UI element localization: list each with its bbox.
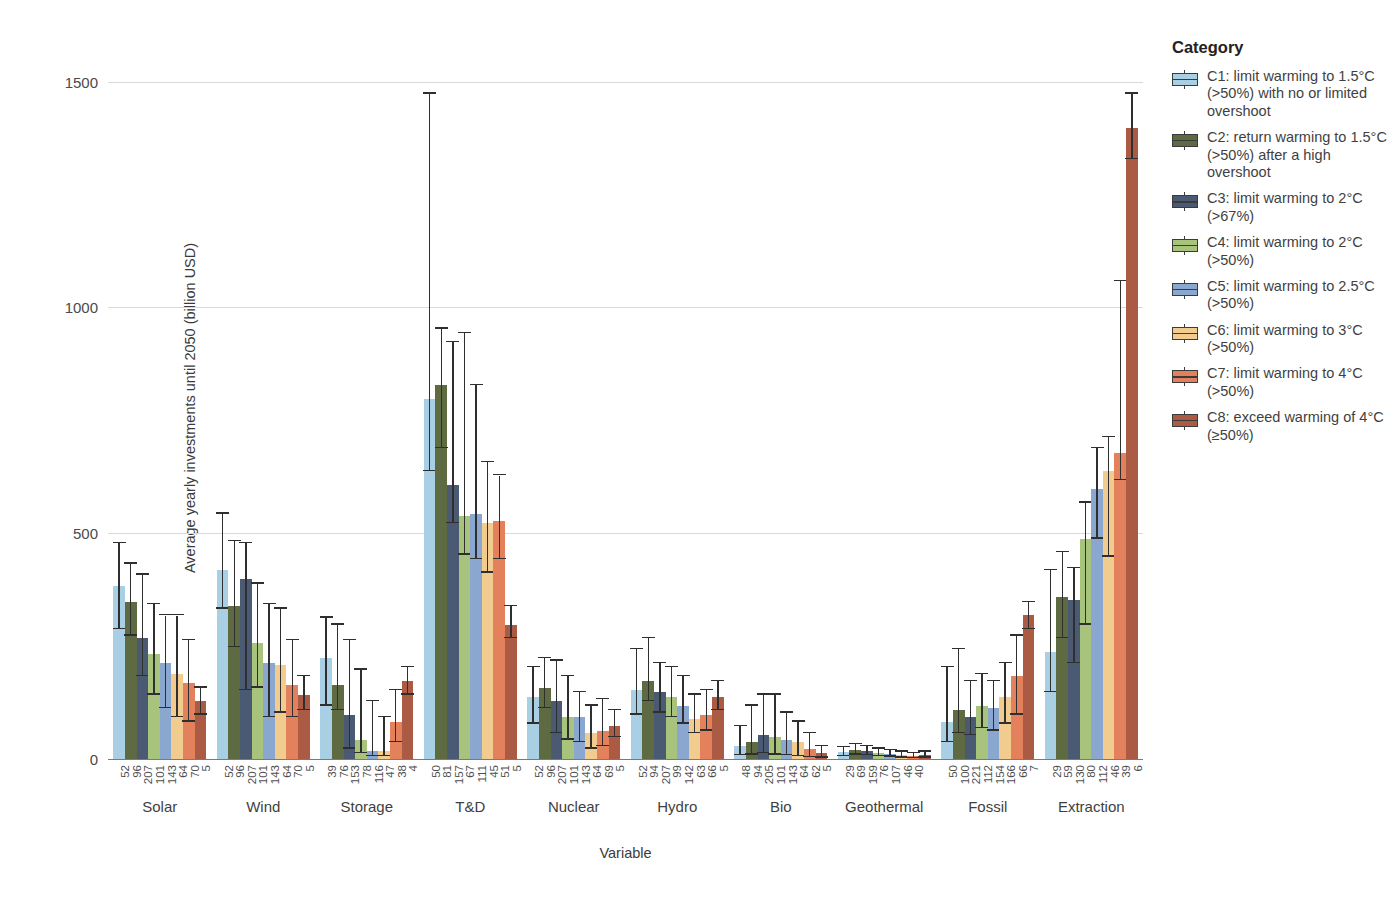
error-cap-lower xyxy=(987,729,1000,730)
bar-slot: 69 xyxy=(597,60,609,760)
bar-count-label: 5 xyxy=(821,765,833,771)
bar-slot: 47 xyxy=(378,60,390,760)
bar-count-label: 4 xyxy=(407,765,419,771)
error-cap-lower xyxy=(608,736,621,737)
error-bar xyxy=(774,695,775,755)
bar-count-label: 143 xyxy=(166,765,178,784)
bar-group-geothermal: 2969159761074640 xyxy=(833,60,937,760)
error-bar xyxy=(614,710,615,737)
error-cap-upper xyxy=(1067,567,1080,568)
bar-group-fossil: 50100221112154166667 xyxy=(936,60,1040,760)
bar-count-label: 5 xyxy=(511,765,523,771)
legend-item-c2[interactable]: C2: return warming to 1.5°C (>50%) after… xyxy=(1172,129,1387,181)
legend-item-label: C1: limit warming to 1.5°C (>50%) with n… xyxy=(1207,68,1387,120)
bar-count-label: 46 xyxy=(902,765,914,778)
y-tick-label: 1000 xyxy=(65,299,98,316)
error-cap-upper xyxy=(964,680,977,681)
error-bar xyxy=(292,640,293,717)
legend-item-c3[interactable]: C3: limit warming to 2°C (>67%) xyxy=(1172,190,1387,225)
error-cap-lower xyxy=(354,752,367,753)
error-cap-upper xyxy=(274,607,287,608)
legend-item-c5[interactable]: C5: limit warming to 2.5°C (>50%) xyxy=(1172,278,1387,313)
bar-slot: 159 xyxy=(861,60,873,760)
bar-count-label: 96 xyxy=(234,765,246,778)
bar-slot: 5 xyxy=(609,60,621,760)
bar-count-label: 101 xyxy=(257,765,269,784)
bar-C8-extraction[interactable] xyxy=(1126,128,1138,760)
error-cap-lower xyxy=(251,686,264,687)
error-bar xyxy=(970,681,971,735)
bar-slot: 64 xyxy=(275,60,287,760)
bar-count-label: 69 xyxy=(603,765,615,778)
bar-slot: 111 xyxy=(470,60,482,760)
error-cap-upper xyxy=(1044,569,1057,570)
error-cap-upper xyxy=(1022,601,1035,602)
error-cap-upper xyxy=(527,666,540,667)
legend-item-label: C8: exceed warming of 4°C (≥50%) xyxy=(1207,409,1387,444)
bar-C8-t-d[interactable] xyxy=(505,625,517,760)
error-bar xyxy=(407,667,408,694)
error-cap-upper xyxy=(263,603,276,604)
error-cap-lower xyxy=(239,689,252,690)
error-cap-upper xyxy=(423,92,436,93)
error-cap-upper xyxy=(470,384,483,385)
bar-count-label: 64 xyxy=(798,765,810,778)
legend-item-c7[interactable]: C7: limit warming to 4°C (>50%) xyxy=(1172,365,1387,400)
legend-item-c1[interactable]: C1: limit warming to 1.5°C (>50%) with n… xyxy=(1172,68,1387,120)
error-bar xyxy=(188,640,189,721)
chart-page: Average yearly investments until 2050 (b… xyxy=(0,0,1397,918)
bar-slot: 101 xyxy=(148,60,160,760)
x-group-label-geothermal: Geothermal xyxy=(833,798,937,815)
bar-slot: 63 xyxy=(689,60,701,760)
error-bar xyxy=(1085,503,1086,625)
error-cap-upper xyxy=(952,648,965,649)
bar-C3-t-d[interactable] xyxy=(447,485,459,760)
median-mark xyxy=(1172,376,1198,377)
error-cap-upper xyxy=(837,746,850,747)
error-bar xyxy=(395,690,396,742)
bar-slot: 48 xyxy=(734,60,746,760)
error-bar xyxy=(763,695,764,754)
error-cap-lower xyxy=(1022,628,1035,629)
x-group-label-wind: Wind xyxy=(212,798,316,815)
error-bar xyxy=(717,681,718,710)
bar-slot: 130 xyxy=(1068,60,1080,760)
bar-C7-extraction[interactable] xyxy=(1114,453,1126,760)
legend-item-c4[interactable]: C4: limit warming to 2°C (>50%) xyxy=(1172,234,1387,269)
bar-count-label: 111 xyxy=(476,765,488,782)
error-bar xyxy=(797,722,798,757)
x-group-label-t-d: T&D xyxy=(419,798,523,815)
error-cap-lower xyxy=(481,571,494,572)
legend-item-c6[interactable]: C6: limit warming to 3°C (>50%) xyxy=(1172,322,1387,357)
legend-item-label: C4: limit warming to 2°C (>50%) xyxy=(1207,234,1387,269)
error-cap-lower xyxy=(1056,637,1069,638)
error-bar xyxy=(1108,437,1109,557)
error-cap-upper xyxy=(228,540,241,541)
x-group-label-nuclear: Nuclear xyxy=(522,798,626,815)
bar-count-label: 107 xyxy=(890,765,902,784)
error-cap-upper xyxy=(239,542,252,543)
error-cap-lower xyxy=(596,745,609,746)
error-bar xyxy=(532,667,533,723)
error-cap-lower xyxy=(136,675,149,676)
bar-slot: 52 xyxy=(113,60,125,760)
error-cap-upper xyxy=(136,573,149,574)
bar-count-label: 70 xyxy=(292,765,304,778)
bar-slot: 112 xyxy=(1091,60,1103,760)
error-bar xyxy=(499,476,500,560)
error-cap-lower xyxy=(1091,537,1104,538)
error-bar xyxy=(349,640,350,748)
x-axis-label: Variable xyxy=(108,845,1143,861)
bar-count-label: 6 xyxy=(1132,765,1144,771)
error-cap-lower xyxy=(952,732,965,733)
legend-item-c8[interactable]: C8: exceed warming of 4°C (≥50%) xyxy=(1172,409,1387,444)
bar-slot: 107 xyxy=(884,60,896,760)
error-cap-upper xyxy=(1056,551,1069,552)
bar-slot: 94 xyxy=(642,60,654,760)
error-bar xyxy=(441,329,442,449)
bar-slot: 40 xyxy=(907,60,919,760)
error-bar xyxy=(1073,568,1074,663)
error-bar xyxy=(452,342,453,523)
bar-count-label: 5 xyxy=(718,765,730,771)
bar-C8-fossil[interactable] xyxy=(1023,615,1035,760)
